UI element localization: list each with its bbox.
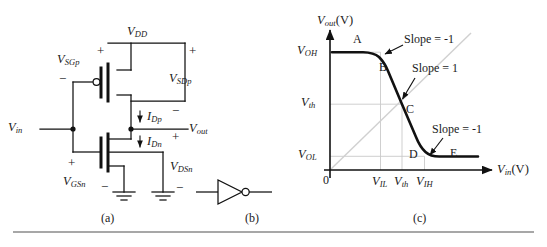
vsdp-plus-sign: + [189,44,196,57]
vdsn-label: VDSn [170,160,193,174]
pmos-bubble-icon [93,79,100,86]
point-a-label: A [353,33,362,45]
vgsn-plus-sign: + [68,156,75,169]
x-tick-vth: Vth [394,175,408,189]
caption-c: (c) [413,212,426,224]
vgsn-minus-sign: − [101,180,108,193]
vout-label: Vout [189,122,208,136]
vout-plus-sign: + [172,130,179,143]
inverter-symbol-graphic [196,180,272,204]
idn-label: IDn [147,135,162,149]
slope-annotation-b: Slope = -1 [404,33,454,45]
point-e-label: E [450,147,457,159]
x-tick-zero: 0 [323,174,329,186]
x-tick-vih: VIH [416,175,433,189]
idp-label: IDp [147,110,162,124]
point-d-label: D [409,148,418,160]
slope-annotation-d: Slope = -1 [432,123,482,135]
vdsn-minus-sign: − [176,181,183,194]
vdd-label: VDD [127,25,147,39]
vgsn-label: VGSn [63,175,86,189]
vsdp-minus-sign: − [172,104,179,117]
caption-a: (a) [101,212,114,224]
y-tick-vol: VOL [298,148,317,162]
vsgp-minus-sign: − [59,72,66,85]
x-axis-label: Vin(V) [497,163,529,177]
caption-b: (b) [245,212,259,224]
y-tick-voh: VOH [297,44,317,58]
symbol-bubble-icon [242,188,249,195]
symbol-triangle [218,180,242,204]
arrow-to-d [430,138,443,155]
x-tick-vil: VIL [372,175,387,189]
vin-label: Vin [8,121,22,135]
slope-annotation-c: Slope = 1 [412,62,458,74]
vsgp-label: VSGp [57,53,80,67]
vsgp-plus-sign: + [97,44,104,57]
vsdp-label: VSDp [169,72,192,86]
y-tick-vth: Vth [301,96,315,110]
point-b-label: B [379,61,387,73]
y-axis-label: Vout(V) [317,14,353,28]
input-node-dot [70,126,75,131]
arrow-to-b [385,45,403,54]
figure-container: Vin VDD VSGp + − VSDp + − IDp IDn Vout +… [0,0,547,247]
point-c-label: C [406,103,414,115]
